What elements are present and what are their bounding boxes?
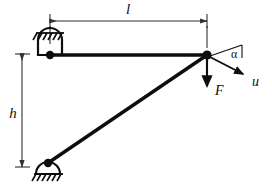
force-label-F: F <box>214 83 224 98</box>
dimension-span-l: l <box>50 1 207 48</box>
frame-members <box>48 55 207 163</box>
bottom-left-pin-support <box>32 159 63 181</box>
top-left-pin-support <box>33 28 64 59</box>
diagonal-member <box>48 55 207 163</box>
dimension-height-h: h <box>9 54 30 167</box>
displacement-label-u: u <box>252 74 259 89</box>
angle-label-alpha: α <box>231 47 238 61</box>
pin-dot-top <box>46 51 54 59</box>
displacement-arrow-u <box>210 57 243 74</box>
diagram-canvas: l h <box>0 0 272 189</box>
structural-diagram-figure: l h <box>0 0 272 189</box>
dimension-label-l: l <box>126 1 130 17</box>
dimension-label-h: h <box>9 105 17 121</box>
pin-dot-bottom <box>44 159 52 167</box>
